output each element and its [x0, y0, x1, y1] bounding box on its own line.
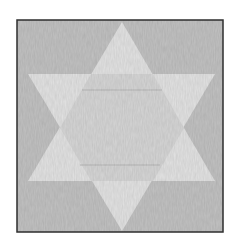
hexagram-figure [0, 0, 238, 250]
texture-overlay [17, 20, 223, 232]
